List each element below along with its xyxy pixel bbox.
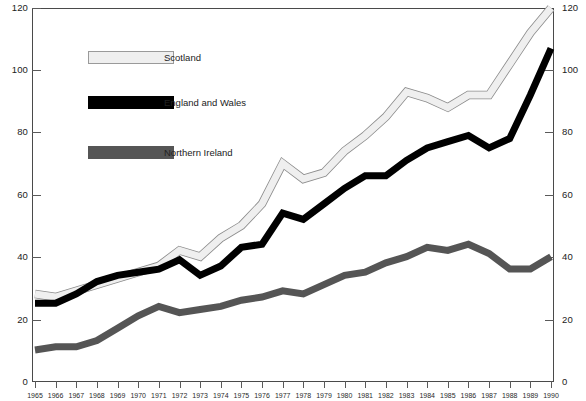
legend-label-scotland: Scotland bbox=[164, 53, 201, 63]
legend-swatch-england-and-wales bbox=[88, 96, 174, 109]
legend-label-england-and-wales: England and Wales bbox=[164, 98, 246, 108]
legend-swatch-northern-ireland bbox=[88, 146, 174, 159]
chart-container: 120 100 80 60 40 20 0 120 100 80 60 40 2… bbox=[0, 0, 586, 401]
series-line-northern-ireland bbox=[35, 244, 551, 350]
legend-label-northern-ireland: Northern Ireland bbox=[164, 148, 233, 158]
legend-swatch-scotland bbox=[88, 51, 174, 64]
